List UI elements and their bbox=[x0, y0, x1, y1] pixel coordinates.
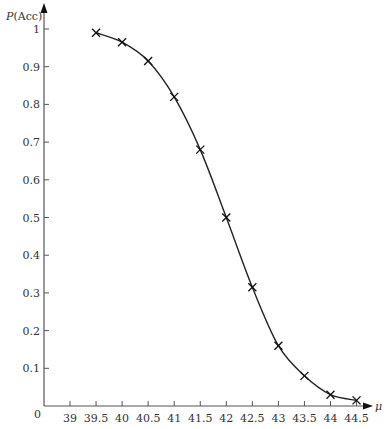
origin-label: 0 bbox=[34, 408, 41, 421]
x-tick-label: 42 bbox=[219, 412, 233, 425]
x-axis bbox=[44, 403, 373, 410]
y-tick-label: 0.7 bbox=[23, 136, 41, 149]
y-tick-label: 0.2 bbox=[23, 325, 41, 338]
y-label-rest: (Acc) bbox=[13, 10, 42, 23]
x-axis-arrow-icon bbox=[363, 403, 373, 410]
operating-characteristic-chart: 0.10.20.30.40.50.60.70.80.91 3939.54040.… bbox=[0, 0, 390, 429]
y-tick-label: 0.6 bbox=[23, 174, 41, 187]
x-marker-icon bbox=[300, 372, 308, 380]
y-tick-label: 0.5 bbox=[23, 212, 41, 225]
x-tick-label: 44.5 bbox=[344, 412, 369, 425]
x-tick-label: 40.5 bbox=[136, 412, 161, 425]
probability-curve bbox=[96, 33, 357, 401]
x-tick-label: 43 bbox=[271, 412, 285, 425]
x-tick-label: 39.5 bbox=[84, 412, 109, 425]
x-marker-icon bbox=[248, 283, 256, 291]
y-axis-label: P(Acc) bbox=[5, 10, 42, 23]
x-tick-label: 40 bbox=[115, 412, 129, 425]
x-marker-icon bbox=[144, 57, 152, 65]
x-tick-label: 39 bbox=[63, 412, 77, 425]
y-tick-label: 0.9 bbox=[23, 61, 41, 74]
x-tick-label: 41 bbox=[167, 412, 181, 425]
x-tick-label: 43.5 bbox=[292, 412, 317, 425]
x-ticks: 3939.54040.54141.54242.54343.54444.5 bbox=[63, 401, 369, 425]
y-axis bbox=[41, 3, 48, 406]
y-tick-label: 0.1 bbox=[23, 362, 41, 375]
y-ticks: 0.10.20.30.40.50.60.70.80.91 bbox=[23, 23, 50, 375]
x-tick-label: 42.5 bbox=[240, 412, 265, 425]
x-marker-icon bbox=[170, 93, 178, 101]
x-marker-icon bbox=[118, 38, 126, 46]
x-axis-label: μ bbox=[375, 400, 382, 413]
x-marker-icon bbox=[92, 29, 100, 37]
x-marker-icon bbox=[327, 391, 335, 399]
x-tick-label: 41.5 bbox=[188, 412, 213, 425]
x-marker-icon bbox=[196, 146, 204, 154]
y-tick-label: 0.4 bbox=[23, 249, 41, 262]
y-tick-label: 1 bbox=[33, 23, 40, 36]
x-tick-label: 44 bbox=[324, 412, 338, 425]
y-tick-label: 0.3 bbox=[23, 287, 41, 300]
x-marker-icon bbox=[274, 342, 282, 350]
y-tick-label: 0.8 bbox=[23, 98, 41, 111]
x-marker-icon bbox=[222, 214, 230, 222]
